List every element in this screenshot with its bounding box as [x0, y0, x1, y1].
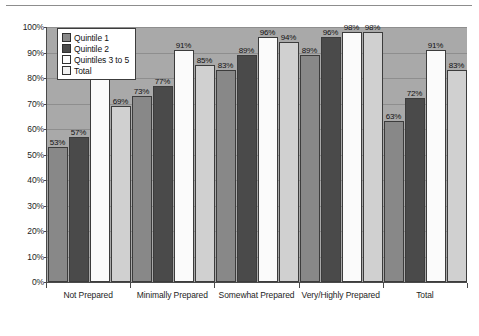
- bar[interactable]: 73%: [132, 96, 152, 282]
- bar[interactable]: 83%: [216, 70, 236, 282]
- x-axis-tick-mark: [214, 283, 215, 288]
- bar[interactable]: 98%: [342, 32, 362, 282]
- bar-group: 63%72%91%83%: [383, 27, 467, 282]
- y-axis-tick-label: 90%: [4, 48, 44, 58]
- x-axis-tick-label: Total: [383, 283, 467, 309]
- legend-item[interactable]: Quintile 2: [62, 43, 129, 54]
- bar-value-label: 98%: [344, 23, 359, 32]
- bar-value-label: 77%: [155, 77, 170, 86]
- bar-slot: 96%: [321, 27, 341, 282]
- y-axis: 0%10%20%30%40%50%60%70%80%90%100%: [0, 27, 44, 282]
- bar[interactable]: 69%: [111, 106, 131, 282]
- x-axis-tick-mark: [299, 283, 300, 288]
- bar-value-label: 57%: [71, 128, 86, 137]
- legend-label: Quintiles 3 to 5: [74, 55, 129, 65]
- chart-legend: Quintile 1Quintile 2Quintiles 3 to 5Tota…: [57, 28, 136, 80]
- bar[interactable]: 96%: [258, 37, 278, 282]
- x-axis: Not PreparedMinimally PreparedSomewhat P…: [46, 283, 467, 309]
- top-divider-rule: [6, 5, 472, 6]
- y-axis-tick-label: 0%: [4, 277, 44, 287]
- y-axis-tick-label: 20%: [4, 226, 44, 236]
- x-axis-tick-label: Very/Highly Prepared: [299, 283, 383, 309]
- bar-value-label: 83%: [218, 61, 233, 70]
- bar[interactable]: 91%: [426, 50, 446, 282]
- bar-value-label: 89%: [239, 46, 254, 55]
- bar[interactable]: 98%: [363, 32, 383, 282]
- bar-group: 83%89%96%94%: [215, 27, 299, 282]
- legend-swatch-icon: [62, 33, 71, 42]
- x-axis-tick-mark: [383, 283, 384, 288]
- legend-swatch-icon: [62, 66, 71, 75]
- bar-slot: 77%: [153, 27, 173, 282]
- bar-slot: 89%: [300, 27, 320, 282]
- y-axis-tick-label: 10%: [4, 252, 44, 262]
- bar-slot: 91%: [426, 27, 446, 282]
- bar-slot: 91%: [174, 27, 194, 282]
- bar-value-label: 96%: [323, 28, 338, 37]
- bar-group: 73%77%91%85%: [131, 27, 215, 282]
- bar-value-label: 94%: [281, 33, 296, 42]
- y-axis-tick-label: 30%: [4, 201, 44, 211]
- bar-value-label: 53%: [50, 138, 65, 147]
- bar-value-label: 83%: [449, 61, 464, 70]
- bar-value-label: 96%: [260, 28, 275, 37]
- bar-value-label: 69%: [113, 97, 128, 106]
- legend-item[interactable]: Quintiles 3 to 5: [62, 54, 129, 65]
- legend-label: Quintile 2: [74, 44, 109, 54]
- legend-label: Total: [74, 66, 91, 76]
- bar[interactable]: 57%: [69, 137, 89, 282]
- bar[interactable]: 89%: [300, 55, 320, 282]
- bar-chart: 0%10%20%30%40%50%60%70%80%90%100% 53%57%…: [0, 14, 479, 314]
- bar-slot: 72%: [405, 27, 425, 282]
- bar[interactable]: 63%: [384, 121, 404, 282]
- x-axis-tick-mark: [467, 283, 468, 288]
- bar-slot: 96%: [258, 27, 278, 282]
- y-axis-tick-label: 50%: [4, 150, 44, 160]
- bar-slot: 83%: [216, 27, 236, 282]
- bar-value-label: 89%: [302, 46, 317, 55]
- bar-value-label: 72%: [407, 89, 422, 98]
- bar[interactable]: 53%: [48, 147, 68, 282]
- bar[interactable]: 91%: [174, 50, 194, 282]
- bar[interactable]: 72%: [405, 98, 425, 282]
- y-axis-tick-label: 80%: [4, 73, 44, 83]
- bar-slot: 94%: [279, 27, 299, 282]
- bar[interactable]: 77%: [153, 86, 173, 282]
- bar-slot: 83%: [447, 27, 467, 282]
- bar-value-label: 73%: [134, 87, 149, 96]
- bar[interactable]: 85%: [195, 65, 215, 282]
- bar-slot: 63%: [384, 27, 404, 282]
- x-axis-tick-mark: [46, 283, 47, 288]
- bar[interactable]: 83%: [447, 70, 467, 282]
- legend-swatch-icon: [62, 55, 71, 64]
- legend-label: Quintile 1: [74, 33, 109, 43]
- bar[interactable]: 89%: [237, 55, 257, 282]
- bar-value-label: 91%: [176, 41, 191, 50]
- bar-slot: 98%: [342, 27, 362, 282]
- y-axis-tick-label: 40%: [4, 175, 44, 185]
- bar-value-label: 91%: [428, 41, 443, 50]
- x-axis-tick-label: Not Prepared: [46, 283, 130, 309]
- x-axis-tick-mark: [130, 283, 131, 288]
- bar-value-label: 85%: [197, 56, 212, 65]
- legend-item[interactable]: Total: [62, 65, 129, 76]
- legend-item[interactable]: Quintile 1: [62, 32, 129, 43]
- bar-group: 89%96%98%98%: [299, 27, 383, 282]
- bar[interactable]: 80%: [90, 78, 110, 282]
- x-axis-tick-label: Minimally Prepared: [130, 283, 214, 309]
- bar-slot: 85%: [195, 27, 215, 282]
- bar-slot: 98%: [363, 27, 383, 282]
- x-axis-tick-label: Somewhat Prepared: [214, 283, 298, 309]
- bar-slot: 89%: [237, 27, 257, 282]
- bar-value-label: 98%: [365, 23, 380, 32]
- legend-swatch-icon: [62, 44, 71, 53]
- y-axis-tick-label: 100%: [4, 22, 44, 32]
- y-axis-tick-label: 70%: [4, 99, 44, 109]
- bar[interactable]: 96%: [321, 37, 341, 282]
- y-axis-tick-label: 60%: [4, 124, 44, 134]
- bar[interactable]: 94%: [279, 42, 299, 282]
- bar-value-label: 63%: [386, 112, 401, 121]
